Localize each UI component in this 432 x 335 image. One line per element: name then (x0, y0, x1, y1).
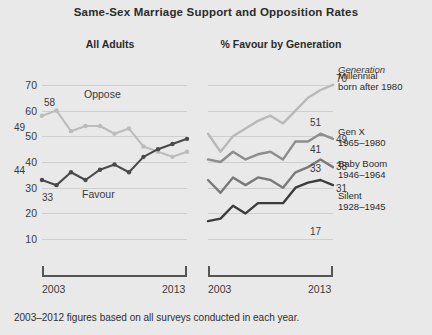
data-point (170, 155, 174, 159)
data-point (98, 168, 102, 172)
data-point (156, 147, 160, 151)
series-line-favour (42, 139, 187, 185)
y-tick-label: 40 (25, 156, 37, 168)
axis-cap-end (185, 266, 187, 276)
silent-start-value: 17 (310, 226, 321, 237)
x-axis-right (208, 266, 333, 278)
favour-label: Favour (82, 188, 115, 200)
data-point (40, 114, 44, 118)
data-point (127, 126, 131, 130)
y-tick-label: 20 (25, 207, 37, 219)
legend-item-name: Baby Boom (338, 158, 387, 169)
data-point (54, 108, 58, 112)
figure-title: Same-Sex Marriage Support and Opposition… (0, 6, 432, 18)
x-label-left-start: 2003 (42, 283, 65, 295)
legend-item-name: Millennial (338, 70, 402, 81)
legend-item-silent: Silent1928–1945 (338, 190, 386, 212)
panel-heading-by-generation: % Favour by Generation (196, 38, 366, 50)
legend-item-baby-boom: Baby Boom1946–1964 (338, 158, 387, 180)
data-point (141, 155, 145, 159)
oppose-label: Oppose (84, 88, 121, 100)
data-point (83, 124, 87, 128)
legend-item-years: born after 1980 (338, 81, 402, 92)
data-point (170, 142, 174, 146)
axis-cap-end (331, 266, 333, 276)
x-label-right-end: 2013 (308, 283, 331, 295)
data-point (54, 183, 58, 187)
x-axis-left (42, 266, 187, 278)
legend-item-name: Silent (338, 190, 386, 201)
x-label-right-start: 2003 (208, 283, 231, 295)
data-point (83, 178, 87, 182)
legend-item-gen-x: Gen X1965–1980 (338, 126, 386, 148)
data-point (185, 137, 189, 141)
oppose-start-value: 58 (44, 96, 55, 107)
legend-item-millennial: Millennialborn after 1980 (338, 70, 402, 92)
plot-by-generation: 51 41 33 17 70 49 38 31 (208, 72, 333, 252)
data-point (69, 170, 73, 174)
legend-item-years: 1928–1945 (338, 201, 386, 212)
axis-cap-start (208, 266, 210, 276)
legend-item-years: 1965–1980 (338, 137, 386, 148)
data-point (98, 124, 102, 128)
panel-heading-all-adults: All Adults (30, 38, 190, 50)
data-point (127, 170, 131, 174)
data-point (141, 144, 145, 148)
data-point (40, 178, 44, 182)
y-tick-label: 70 (25, 79, 37, 91)
y-tick-label: 10 (25, 233, 37, 245)
data-point (112, 162, 116, 166)
data-point (69, 129, 73, 133)
axis-cap-start (42, 266, 44, 276)
oppose-end-value: 44 (14, 164, 25, 175)
footnote: 2003–2012 figures based on all surveys c… (14, 312, 299, 323)
babyboom-start-value: 33 (310, 163, 321, 174)
axis-line (208, 275, 333, 277)
legend-item-name: Gen X (338, 126, 386, 137)
y-tick-label: 30 (25, 182, 37, 194)
favour-end-value: 49 (14, 122, 25, 133)
data-point (112, 132, 116, 136)
favour-start-value: 33 (42, 191, 53, 202)
chart-figure: Same-Sex Marriage Support and Opposition… (0, 0, 432, 335)
genx-start-value: 41 (310, 144, 321, 155)
data-point (185, 150, 189, 154)
x-label-left-end: 2013 (162, 283, 185, 295)
millennial-start-value: 51 (310, 117, 321, 128)
axis-line (42, 275, 187, 277)
legend-item-years: 1946–1964 (338, 169, 387, 180)
y-tick-label: 60 (25, 105, 37, 117)
y-tick-label: 50 (25, 130, 37, 142)
plot-all-adults: 70605040302010 Oppose Favour 58 33 49 44 (42, 72, 187, 252)
